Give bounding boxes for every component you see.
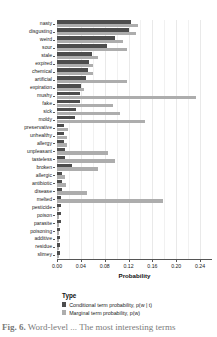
x-axis-tick-label: 0.20 bbox=[166, 263, 186, 269]
bar-marginal[interactable] bbox=[57, 40, 123, 43]
bar-marginal[interactable] bbox=[57, 183, 66, 186]
y-axis-label: mushy bbox=[37, 93, 52, 98]
y-axis-tick bbox=[53, 112, 55, 113]
y-axis-tick bbox=[53, 151, 55, 152]
y-axis-tick bbox=[53, 239, 55, 240]
y-axis-label: artificial bbox=[35, 77, 52, 82]
bar-marginal[interactable] bbox=[57, 247, 59, 250]
bar-group bbox=[57, 116, 212, 124]
bar-marginal[interactable] bbox=[57, 112, 120, 115]
y-axis-tick bbox=[53, 159, 55, 160]
y-axis-label: allergy bbox=[37, 141, 52, 146]
caption-text: Word-level ... The most interesting term… bbox=[26, 322, 176, 332]
caption-prefix: Fig. 6. bbox=[2, 322, 26, 332]
bar-marginal[interactable] bbox=[57, 64, 93, 67]
bar-group bbox=[57, 228, 212, 236]
y-axis-label: parasite bbox=[34, 221, 52, 226]
y-axis-tick bbox=[53, 24, 55, 25]
y-axis-tick bbox=[53, 247, 55, 248]
y-axis-tick bbox=[53, 199, 55, 200]
y-axis-labels: nastydisgustingweirdsourstaleexpiredchem… bbox=[0, 20, 55, 259]
y-axis-label: melted bbox=[37, 197, 52, 202]
y-axis-tick bbox=[53, 128, 55, 129]
y-axis-label: fake bbox=[42, 101, 52, 106]
y-axis-tick bbox=[53, 136, 55, 137]
y-axis-tick bbox=[53, 175, 55, 176]
y-axis-label: nasty bbox=[40, 21, 52, 26]
bar-marginal[interactable] bbox=[57, 96, 196, 99]
y-axis-label: unpleasant bbox=[27, 149, 52, 154]
y-axis-label: weird bbox=[40, 37, 52, 42]
y-axis-tick bbox=[53, 40, 55, 41]
y-axis-tick bbox=[53, 120, 55, 121]
bar-group bbox=[57, 140, 212, 148]
x-axis-tick bbox=[129, 259, 130, 262]
y-axis-label: moldy bbox=[38, 117, 52, 122]
bar-marginal[interactable] bbox=[57, 215, 59, 218]
bar-group bbox=[57, 44, 212, 52]
y-axis-label: poisoning bbox=[30, 229, 52, 234]
bar-marginal[interactable] bbox=[57, 120, 145, 123]
y-axis-tick bbox=[53, 255, 55, 256]
bar-group bbox=[57, 243, 212, 251]
legend-label-conditional: Conditional term probability, p(w | t) bbox=[69, 302, 152, 308]
bar-marginal[interactable] bbox=[57, 88, 84, 91]
y-axis-label: expired bbox=[35, 61, 52, 66]
bar-marginal[interactable] bbox=[57, 80, 127, 83]
bar-marginal[interactable] bbox=[57, 223, 59, 226]
bar-marginal[interactable] bbox=[57, 167, 98, 170]
bar-group bbox=[57, 60, 212, 68]
bar-group bbox=[57, 124, 212, 132]
y-axis-tick bbox=[53, 207, 55, 208]
y-axis-tick bbox=[53, 215, 55, 216]
x-axis-tick-label: 0.12 bbox=[119, 263, 139, 269]
bar-marginal[interactable] bbox=[57, 24, 138, 27]
x-axis-tick bbox=[176, 259, 177, 262]
bar-marginal[interactable] bbox=[57, 239, 59, 242]
bar-marginal[interactable] bbox=[57, 32, 136, 35]
bar-marginal[interactable] bbox=[57, 136, 67, 139]
figure-container: nastydisgustingweirdsourstaleexpiredchem… bbox=[0, 0, 217, 337]
bar-group bbox=[57, 28, 212, 36]
bar-marginal[interactable] bbox=[57, 231, 59, 234]
x-axis-tick bbox=[152, 259, 153, 262]
y-axis-tick bbox=[53, 223, 55, 224]
y-axis-label: sick bbox=[43, 109, 52, 114]
y-axis-tick bbox=[53, 64, 55, 65]
legend-item-marginal[interactable]: Marginal term probability, p(w) bbox=[62, 309, 212, 316]
bar-marginal[interactable] bbox=[57, 175, 65, 178]
bar-marginal[interactable] bbox=[57, 191, 87, 194]
bar-marginal[interactable] bbox=[57, 199, 163, 202]
y-axis-label: slimey bbox=[38, 252, 52, 257]
bar-group bbox=[57, 108, 212, 116]
bar-marginal[interactable] bbox=[57, 48, 127, 51]
legend-item-conditional[interactable]: Conditional term probability, p(w | t) bbox=[62, 301, 212, 308]
bar-marginal[interactable] bbox=[57, 104, 113, 107]
bar-marginal[interactable] bbox=[57, 255, 59, 258]
y-axis-tick bbox=[53, 80, 55, 81]
y-axis-tick bbox=[53, 56, 55, 57]
y-axis-label: unhealthy bbox=[30, 133, 52, 138]
bar-marginal[interactable] bbox=[57, 128, 68, 131]
legend-title: Type bbox=[62, 292, 212, 299]
bar-group bbox=[57, 188, 212, 196]
y-axis-label: allergic bbox=[36, 173, 52, 178]
bar-group bbox=[57, 236, 212, 244]
bar-marginal[interactable] bbox=[57, 159, 115, 162]
bar-marginal[interactable] bbox=[57, 56, 98, 59]
y-axis-label: residue bbox=[35, 244, 52, 249]
x-axis-tick-label: 0.16 bbox=[142, 263, 162, 269]
x-axis-tick-label: 0.00 bbox=[47, 263, 67, 269]
bar-group bbox=[57, 68, 212, 76]
y-axis-label: disease bbox=[34, 189, 52, 194]
y-axis-label: antibiotic bbox=[32, 181, 52, 186]
bar-marginal[interactable] bbox=[57, 143, 67, 146]
y-axis-tick bbox=[53, 143, 55, 144]
bar-marginal[interactable] bbox=[57, 207, 59, 210]
bar-marginal[interactable] bbox=[57, 151, 108, 154]
y-axis-tick bbox=[53, 88, 55, 89]
bar-marginal[interactable] bbox=[57, 72, 93, 75]
x-axis-title: Probability bbox=[57, 272, 212, 279]
x-axis-tick-label: 0.04 bbox=[71, 263, 91, 269]
bar-group bbox=[57, 52, 212, 60]
